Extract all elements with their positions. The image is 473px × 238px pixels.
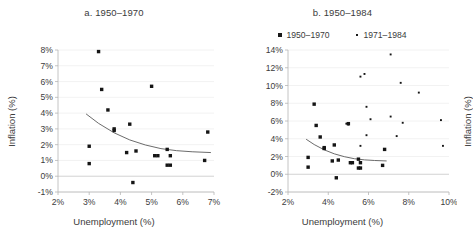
trend-curve (86, 114, 211, 153)
data-point (319, 135, 322, 138)
data-point (364, 73, 366, 75)
data-point (402, 122, 404, 124)
data-point (333, 143, 336, 146)
svg-text:4%: 4% (114, 197, 127, 207)
data-point (169, 163, 172, 166)
data-point (206, 130, 209, 133)
panel-a-x-axis-label: Unemployment (%) (0, 216, 228, 227)
data-point (88, 145, 91, 148)
data-point (359, 161, 362, 164)
data-point (125, 151, 128, 154)
svg-text:4%: 4% (271, 134, 284, 144)
data-point (418, 92, 420, 94)
svg-text:2%: 2% (271, 152, 284, 162)
svg-text:3%: 3% (41, 124, 54, 134)
data-point (337, 158, 340, 161)
svg-text:3%: 3% (83, 197, 96, 207)
svg-text:4%: 4% (41, 108, 54, 118)
data-point (370, 118, 372, 120)
svg-text:-2%: -2% (268, 187, 284, 197)
data-point (366, 134, 368, 136)
data-point (357, 157, 360, 160)
svg-text:0%: 0% (271, 169, 284, 179)
panel-a-plot: -1%0%1%2%3%4%5%6%7%8%2%3%4%5%6%7% (0, 0, 228, 238)
data-point (306, 156, 309, 159)
svg-text:8%: 8% (271, 98, 284, 108)
data-point (169, 154, 172, 157)
data-point (396, 135, 398, 137)
data-point (400, 82, 402, 84)
data-point (351, 161, 354, 164)
svg-text:2%: 2% (282, 197, 295, 207)
data-point (314, 124, 317, 127)
data-point (153, 154, 156, 157)
data-point (131, 181, 134, 184)
chart-panel-b: b. 1950–1984 1950–1970 1971–1984 Inflati… (228, 0, 457, 238)
svg-text:6%: 6% (271, 116, 284, 126)
svg-text:8%: 8% (403, 197, 416, 207)
svg-text:5%: 5% (145, 197, 158, 207)
data-point (156, 154, 159, 157)
svg-text:6%: 6% (177, 197, 190, 207)
svg-text:0%: 0% (41, 171, 54, 181)
svg-text:6%: 6% (41, 77, 54, 87)
data-point (390, 53, 392, 55)
svg-text:6%: 6% (362, 197, 375, 207)
data-point (306, 165, 309, 168)
data-point (312, 102, 315, 105)
data-point (100, 88, 103, 91)
data-point (106, 108, 109, 111)
data-point (345, 123, 347, 125)
data-point (128, 122, 131, 125)
data-point (134, 149, 137, 152)
svg-text:-1%: -1% (38, 187, 54, 197)
data-point (360, 145, 362, 147)
svg-text:12%: 12% (266, 63, 284, 73)
panel-b-plot: -2%0%2%4%6%8%10%12%14%2%4%6%8%10% (228, 0, 457, 238)
trend-curve (306, 139, 387, 161)
data-point (440, 119, 442, 121)
data-point (383, 148, 386, 151)
data-point (442, 145, 444, 147)
svg-text:5%: 5% (41, 92, 54, 102)
svg-text:8%: 8% (41, 45, 54, 55)
panel-b-y-axis-label: Inflation (%) (462, 82, 473, 162)
data-point (88, 162, 91, 165)
data-point (359, 166, 362, 169)
data-point (381, 164, 384, 167)
svg-text:10%: 10% (440, 197, 457, 207)
data-point (97, 50, 100, 53)
svg-text:7%: 7% (41, 61, 54, 71)
data-point (366, 106, 368, 108)
data-point (203, 159, 206, 162)
data-point (335, 176, 338, 179)
svg-text:1%: 1% (41, 155, 54, 165)
data-point (360, 76, 362, 78)
panel-b-x-axis-label: Unemployment (%) (228, 216, 457, 227)
svg-text:14%: 14% (266, 45, 284, 55)
data-point (112, 127, 115, 130)
svg-text:4%: 4% (322, 197, 335, 207)
chart-panel-a: a. 1950–1970 Inflation (%) -1%0%1%2%3%4%… (0, 0, 228, 238)
svg-text:2%: 2% (52, 197, 65, 207)
svg-text:7%: 7% (208, 197, 221, 207)
svg-text:2%: 2% (41, 140, 54, 150)
data-point (166, 148, 169, 151)
data-point (150, 85, 153, 88)
data-point (347, 124, 349, 126)
data-point (323, 146, 326, 149)
data-point (390, 116, 392, 118)
data-point (166, 163, 169, 166)
data-point (331, 159, 334, 162)
svg-text:10%: 10% (266, 81, 284, 91)
